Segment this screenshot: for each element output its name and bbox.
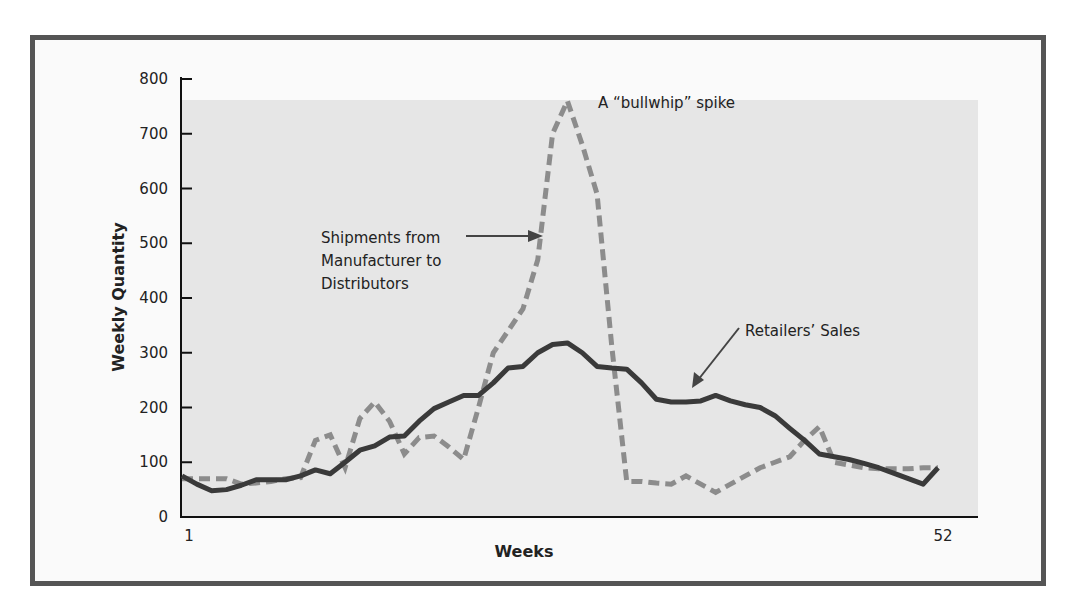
- y-tick-label: 800: [139, 70, 168, 88]
- y-tick-label: 200: [139, 399, 168, 417]
- plot-background: [182, 100, 978, 517]
- x-axis-label: Weeks: [495, 542, 554, 561]
- shipments-annotation-line3: Distributors: [321, 275, 409, 293]
- y-axis-label: Weekly Quantity: [109, 222, 128, 372]
- y-tick-label: 400: [139, 289, 168, 307]
- shipments-annotation-line2: Manufacturer to: [321, 252, 441, 270]
- shipments-annotation-line1: Shipments from: [321, 229, 440, 247]
- x-tick-end: 52: [933, 527, 952, 545]
- retail-sales-annotation: Retailers’ Sales: [745, 322, 860, 340]
- y-tick-label: 100: [139, 453, 168, 471]
- y-tick-label: 700: [139, 125, 168, 143]
- bullwhip-annotation: A “bullwhip” spike: [598, 94, 735, 112]
- line-chart: 0100200300400500600700800 1 52 Weeks Wee…: [0, 0, 1069, 610]
- y-tick-label: 600: [139, 180, 168, 198]
- y-tick-label: 0: [158, 508, 168, 526]
- x-tick-start: 1: [184, 527, 194, 545]
- y-tick-label: 500: [139, 234, 168, 252]
- y-tick-label: 300: [139, 344, 168, 362]
